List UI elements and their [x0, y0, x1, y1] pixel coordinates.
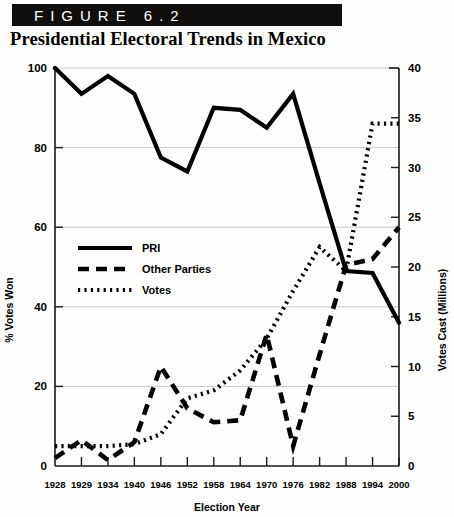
- x-axis-tick-label: 1934: [97, 479, 119, 490]
- y-axis-right-tick-label: 20: [408, 261, 421, 273]
- figure-number-banner: FIGURE 6.2: [12, 4, 342, 26]
- x-axis-tick-label: 1940: [124, 479, 145, 490]
- y-axis-tick-label: 80: [34, 142, 47, 154]
- y-axis-right-tick-label: 30: [408, 162, 421, 174]
- x-axis-tick-label: 1964: [230, 479, 252, 490]
- gridlines: [55, 68, 399, 386]
- y-axis-right-ticks: 0510152025303540: [391, 62, 421, 472]
- legend-label-votes: Votes: [142, 284, 171, 296]
- y-axis-right-tick-label: 5: [408, 410, 415, 422]
- x-axis-tick-label: 1994: [362, 479, 384, 490]
- x-axis-tick-label: 1970: [256, 479, 277, 490]
- x-axis-tick-label: 1976: [283, 479, 304, 490]
- chart-svg: 020406080100 0510152025303540 1928192919…: [0, 52, 454, 517]
- y-axis-right-tick-label: 25: [408, 211, 421, 223]
- x-axis-tick-label: 1928: [44, 479, 65, 490]
- y-axis-tick-label: 20: [34, 380, 47, 392]
- x-axis-title: Election Year: [194, 501, 260, 513]
- y-axis-tick-label: 40: [34, 301, 47, 313]
- x-axis-ticks: 1928192919341940194619521958196419701976…: [44, 457, 409, 490]
- x-axis-tick-label: 2000: [388, 479, 409, 490]
- line-chart: 020406080100 0510152025303540 1928192919…: [0, 52, 454, 517]
- data-series: [55, 68, 399, 460]
- chart-legend: PRIOther PartiesVotes: [78, 242, 211, 296]
- y-axis-right-tick-label: 10: [408, 361, 421, 373]
- y-axis-right-tick-label: 35: [408, 112, 421, 124]
- y-axis-tick-label: 100: [28, 62, 47, 74]
- y-axis-right-tick-label: 15: [408, 311, 421, 323]
- y-axis-right-title: Votes Cast (Millions): [436, 269, 448, 371]
- series-line-pri: [55, 68, 399, 323]
- page-title: Presidential Electoral Trends in Mexico: [10, 29, 326, 50]
- y-axis-right-tick-label: 0: [408, 460, 414, 472]
- legend-label-pri: PRI: [142, 242, 160, 254]
- series-line-votes: [55, 124, 399, 446]
- y-axis-tick-label: 60: [34, 221, 47, 233]
- x-axis-tick-label: 1988: [336, 479, 357, 490]
- legend-label-other-parties: Other Parties: [142, 263, 211, 275]
- x-axis-tick-label: 1946: [150, 479, 171, 490]
- y-axis-right-tick-label: 40: [408, 62, 421, 74]
- x-axis-tick-label: 1958: [203, 479, 224, 490]
- x-axis-tick-label: 1982: [309, 479, 330, 490]
- y-axis-left-title: % Votes Won: [3, 277, 15, 343]
- x-axis-tick-label: 1929: [71, 479, 92, 490]
- figure-container: FIGURE 6.2 Presidential Electoral Trends…: [0, 0, 454, 517]
- figure-number-label: FIGURE 6.2: [12, 7, 186, 24]
- x-axis-tick-label: 1952: [177, 479, 198, 490]
- y-axis-left-ticks: 020406080100: [28, 62, 63, 472]
- y-axis-tick-label: 0: [41, 460, 47, 472]
